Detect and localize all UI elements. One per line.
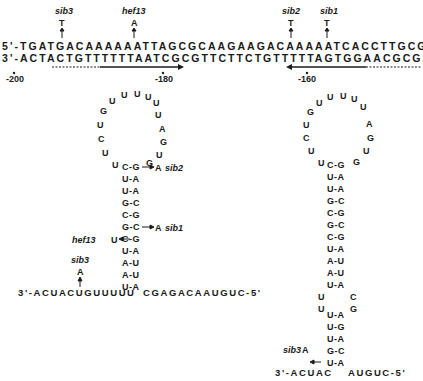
loop-nt: U	[112, 160, 119, 170]
stem-pair: U-A	[327, 334, 345, 344]
stem-pair: U-A	[122, 186, 140, 196]
stem-pair: C-G	[327, 232, 345, 242]
annotation-base-sib2: A	[155, 163, 162, 173]
stem-pair: U-A	[327, 280, 345, 290]
loop-nt: A	[159, 124, 166, 134]
stem-pair: C-G	[327, 208, 345, 218]
loop-nt: G	[146, 158, 153, 168]
loop-nt: U	[97, 120, 104, 130]
loop-nt-extra: U	[153, 98, 160, 108]
annotation-label-sib1: sib1	[165, 223, 183, 233]
stem-pair: U-A	[327, 172, 345, 182]
stem-pair: G-C	[122, 198, 140, 208]
bulge-nt: C	[350, 292, 357, 302]
annotation-label-sib3-right: sib3	[283, 345, 301, 355]
loop-nt: U	[303, 120, 310, 130]
stem-pair: U-A	[122, 174, 140, 184]
stem-pair: G-C	[327, 346, 345, 356]
loop-nt: G	[100, 106, 107, 116]
stem-pair: G-C	[122, 222, 140, 232]
stem-pair: G-C	[327, 220, 345, 230]
loop-nt: U	[318, 158, 325, 168]
bulge-nt: U	[318, 292, 325, 302]
annotation-base-sib3-right: A	[302, 345, 309, 355]
loop-nt: G	[353, 157, 360, 167]
right-tail-3-prime: 3'-ACUAC	[275, 367, 333, 379]
loop-nt: U	[351, 94, 358, 104]
annotation-base-hef13: U	[111, 235, 118, 245]
stem-pair: A-U	[122, 258, 140, 268]
loop-nt: A	[366, 119, 373, 129]
loop-nt: U	[156, 150, 163, 160]
loop-nt: C	[303, 133, 310, 143]
annotation-base-sib1: A	[155, 223, 162, 233]
left-tail-3-prime: 3'-ACUACUGUUUUU	[18, 287, 136, 299]
annotation-label-sib2: sib2	[165, 163, 183, 173]
loop-nt: C	[98, 134, 105, 144]
loop-nt: U	[327, 92, 334, 102]
stem-pair: C-G	[122, 210, 140, 220]
loop-nt: U	[340, 91, 347, 101]
loop-nt: U	[145, 92, 152, 102]
loop-nt: G	[307, 107, 314, 117]
stem-pair: U-A	[122, 246, 140, 256]
annotation-base-sib3: A	[77, 267, 84, 277]
right-tail-5-prime: AUGUC-5'	[348, 367, 406, 379]
loop-nt: U	[102, 148, 109, 158]
loop-nt: U	[363, 146, 370, 156]
stem-pair: U-A	[327, 310, 345, 320]
bulge-nt: U	[318, 304, 325, 314]
bulge-nt: G	[350, 304, 357, 314]
annotation-label-sib3: sib3	[71, 255, 89, 265]
loop-nt: U	[308, 146, 315, 156]
diagram-lines	[0, 0, 423, 381]
loop-nt: G	[160, 137, 167, 147]
left-tail-5-prime: CGAGACAAUGUC-5'	[143, 287, 262, 299]
loop-nt: G	[367, 133, 374, 143]
stem-pair: C-G	[122, 162, 140, 172]
loop-nt: U	[109, 96, 116, 106]
stem-pair: U-A	[327, 244, 345, 254]
loop-nt: U	[316, 98, 323, 108]
loop-nt: U	[134, 89, 141, 99]
stem-pair: G-C	[327, 196, 345, 206]
loop-nt: U	[360, 102, 367, 112]
stem-pair: A-U	[327, 268, 345, 278]
loop-nt: U	[155, 110, 162, 120]
stem-pair: C-G	[122, 234, 140, 244]
annotation-label-hef13: hef13	[72, 235, 96, 245]
stem-pair: U-A	[327, 184, 345, 194]
stem-pair: A-U	[327, 256, 345, 266]
stem-pair: C-G	[327, 160, 345, 170]
stem-pair: A-U	[122, 270, 140, 280]
stem-pair: U-G	[327, 322, 345, 332]
loop-nt: U	[121, 90, 128, 100]
